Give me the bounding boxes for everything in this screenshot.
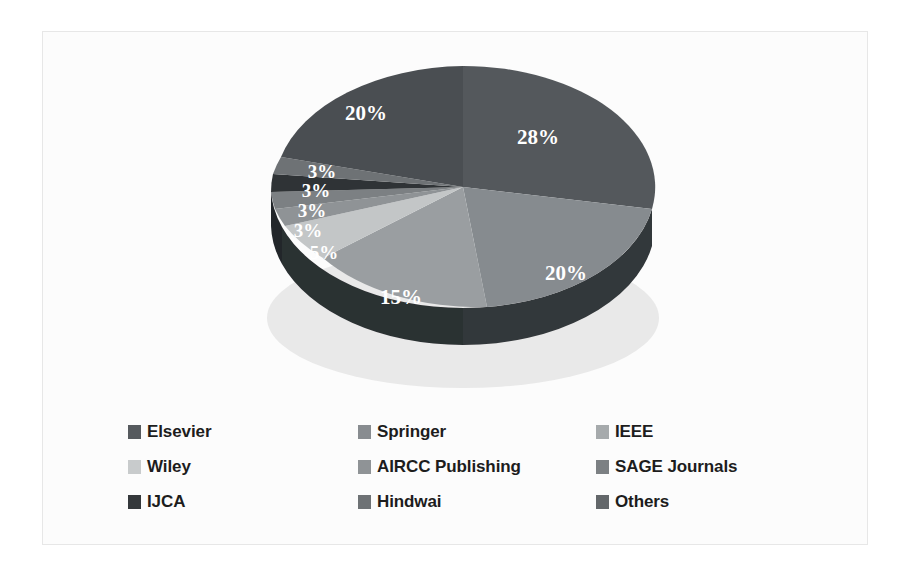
legend-swatch-icon [128, 425, 141, 439]
slice-elsevier[interactable] [463, 66, 655, 209]
legend-label: Hindwai [377, 492, 441, 512]
legend-swatch-icon [596, 495, 609, 509]
chart-legend: Elsevier Springer IEEE Wiley AIRCC Publi… [128, 414, 828, 519]
legend-label: Springer [377, 422, 446, 442]
legend-item-aircc-publishing[interactable]: AIRCC Publishing [358, 449, 596, 484]
legend-swatch-icon [128, 495, 141, 509]
slice-label-springer: 20% [545, 261, 587, 285]
slice-label-elsevier: 28% [517, 125, 559, 149]
pie-chart: 20% 28% 20% 15% 5% 3% 3% 3% 3% [248, 50, 678, 390]
legend-item-wiley[interactable]: Wiley [128, 449, 358, 484]
slice-label-sage-journals: 3% [298, 200, 327, 221]
legend-label: IEEE [615, 422, 653, 442]
legend-row: IJCA Hindwai Others [128, 484, 828, 519]
legend-item-others[interactable]: Others [596, 484, 828, 519]
legend-item-springer[interactable]: Springer [358, 414, 596, 449]
slice-label-others: 20% [345, 101, 387, 125]
legend-item-elsevier[interactable]: Elsevier [128, 414, 358, 449]
legend-swatch-icon [596, 425, 609, 439]
legend-swatch-icon [128, 460, 141, 474]
slice-label-ieee: 15% [380, 285, 422, 309]
legend-swatch-icon [358, 425, 371, 439]
slice-label-hindwai: 3% [308, 161, 337, 182]
legend-label: Elsevier [147, 422, 211, 442]
legend-label: Wiley [147, 457, 191, 477]
slice-label-wiley: 5% [310, 242, 339, 263]
legend-item-hindwai[interactable]: Hindwai [358, 484, 596, 519]
legend-row: Wiley AIRCC Publishing SAGE Journals [128, 449, 828, 484]
figure-canvas: 20% 28% 20% 15% 5% 3% 3% 3% 3% Elsevier … [0, 0, 909, 572]
pie-chart-svg: 20% 28% 20% 15% 5% 3% 3% 3% 3% [248, 50, 678, 390]
legend-label: Others [615, 492, 669, 512]
legend-swatch-icon [358, 495, 371, 509]
legend-swatch-icon [358, 460, 371, 474]
legend-row: Elsevier Springer IEEE [128, 414, 828, 449]
legend-label: SAGE Journals [615, 457, 737, 477]
legend-item-sage-journals[interactable]: SAGE Journals [596, 449, 828, 484]
legend-item-ieee[interactable]: IEEE [596, 414, 828, 449]
slice-label-aircc-publishing: 3% [294, 220, 323, 241]
legend-item-ijca[interactable]: IJCA [128, 484, 358, 519]
legend-swatch-icon [596, 460, 609, 474]
slice-label-ijca: 3% [302, 180, 331, 201]
legend-label: IJCA [147, 492, 185, 512]
legend-label: AIRCC Publishing [377, 457, 521, 477]
